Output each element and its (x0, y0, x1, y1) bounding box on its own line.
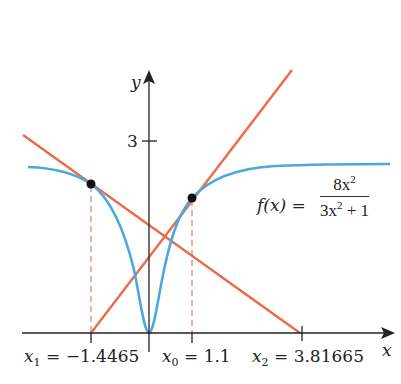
function-fraction: 8x2 3x2 + 1 (320, 173, 369, 220)
point-x1 (87, 180, 96, 189)
point-x0 (188, 194, 197, 203)
fraction-numerator: 8x2 (320, 173, 369, 197)
denominator-text: 3x (320, 200, 337, 219)
x1-symbol: x (24, 346, 34, 366)
x1-annotation: x1 = −1.4465 (24, 346, 139, 369)
x2-subscript: 2 (262, 356, 269, 369)
function-label-lhs: f(x) = (257, 195, 306, 215)
denominator-constant: + 1 (343, 200, 370, 219)
x2-value: = 3.81665 (269, 346, 364, 366)
x0-annotation: x0 = 1.1 (162, 346, 231, 369)
x2-annotation: x2 = 3.81665 (252, 346, 364, 369)
fraction-denominator: 3x2 + 1 (320, 197, 369, 221)
x1-subscript: 1 (34, 356, 41, 369)
chart: y 3 x x1 = −1.4465 x0 = 1.1 x2 = 3.81665… (0, 0, 401, 384)
x0-symbol: x (162, 346, 172, 366)
numerator-exponent: 2 (350, 173, 356, 185)
x0-subscript: 0 (172, 356, 179, 369)
x2-symbol: x (252, 346, 262, 366)
numerator-text: 8x (333, 175, 350, 194)
y-axis-label: y (131, 72, 141, 92)
x1-value: = −1.4465 (41, 346, 140, 366)
x0-value: = 1.1 (179, 346, 231, 366)
x-axis-label: x (382, 340, 392, 360)
tangent-line-x1 (23, 135, 300, 333)
y-tick-label-3: 3 (127, 131, 138, 151)
